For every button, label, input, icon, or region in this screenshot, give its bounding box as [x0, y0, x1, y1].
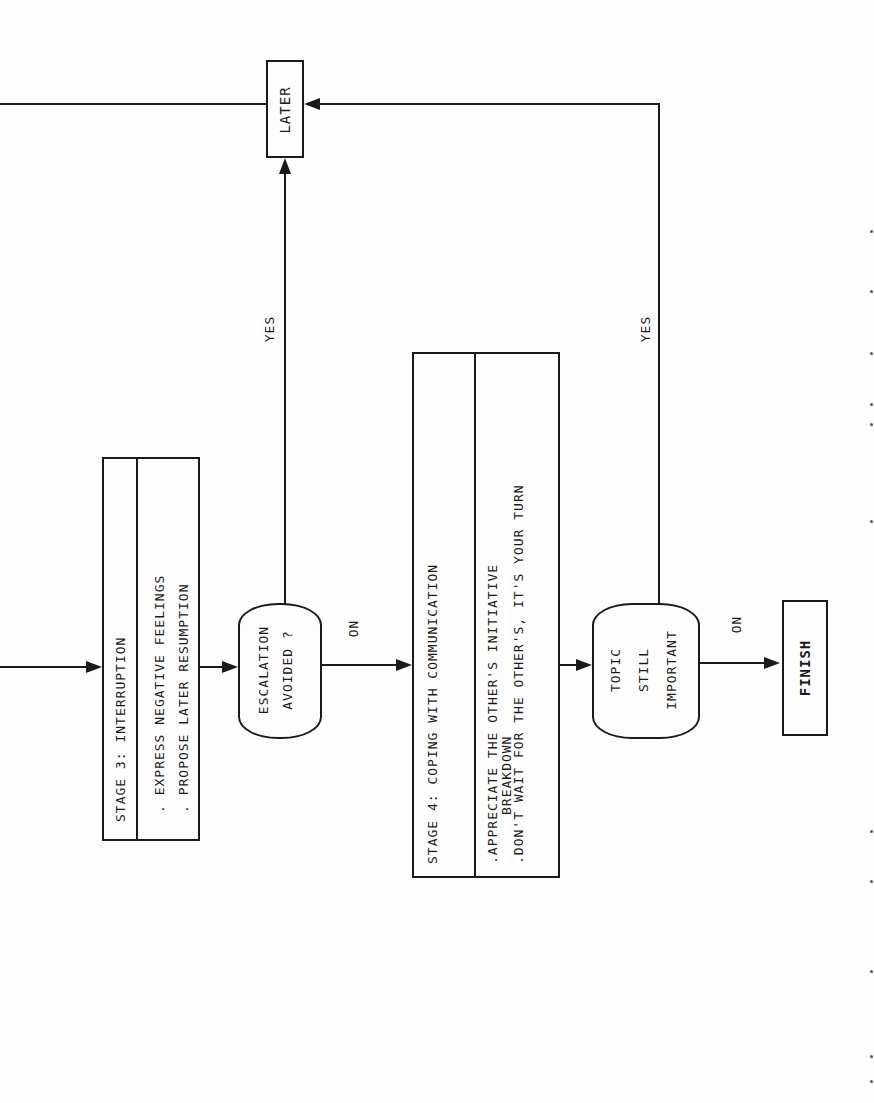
caption-artifact [870, 352, 873, 355]
arrow-into-topic [576, 659, 592, 671]
escalation-yes-label: YES [261, 309, 279, 349]
stage4-item-1: .APPRECIATE THE OTHER'S INITIATIVE [484, 364, 502, 866]
stage3-title: STAGE 3: INTERRUPTION [111, 472, 131, 826]
stage3-box: STAGE 3: INTERRUPTION . EXPRESS NEGATIVE… [102, 457, 200, 841]
caption-artifact [870, 423, 873, 426]
stage3-item-1: . EXPRESS NEGATIVE FEELINGS [150, 463, 170, 835]
topic-yes-vertical-line [658, 103, 660, 613]
stage4-title-line1: STAGE 4: COPING WITH COMMUNICATION [424, 364, 442, 866]
arrow-into-stage4 [396, 659, 412, 671]
caption-artifact [870, 230, 873, 233]
later-box: LATER [266, 60, 304, 158]
caption-artifact [870, 290, 873, 293]
stage4-item-2: .DON'T WAIT FOR THE OTHER'S, IT'S YOUR T… [510, 364, 528, 866]
incoming-line-to-stage3 [0, 666, 86, 668]
caption-artifact [870, 1080, 873, 1083]
caption-artifact [870, 830, 873, 833]
incoming-line-to-later [0, 103, 268, 105]
topic-no-line [700, 662, 766, 664]
topic-yes-label: YES [637, 309, 655, 349]
stage3-divider [136, 459, 138, 839]
caption-artifact [870, 520, 873, 523]
caption-artifact [870, 970, 873, 973]
later-label: LATER [275, 65, 295, 155]
stage3-item-2: . PROPOSE LATER RESUMPTION [174, 463, 194, 835]
topic-line3: IMPORTANT [663, 610, 681, 730]
arrow-into-later-right [304, 98, 320, 110]
escalation-no-label: NO [346, 621, 361, 639]
arrow-into-escalation [222, 661, 238, 673]
topic-yes-horizontal-line [318, 103, 660, 105]
escalation-line2: AVOIDED ? [279, 610, 297, 730]
escalation-decision: ESCALATION AVOIDED ? [238, 603, 322, 739]
stage4-box: STAGE 4: COPING WITH COMMUNICATION BREAK… [412, 352, 560, 878]
escalation-line1: ESCALATION [255, 610, 273, 730]
stage4-divider [474, 354, 476, 876]
arrow-into-stage3 [86, 661, 102, 673]
finish-box: FINISH [782, 600, 828, 736]
escalation-no-line [322, 664, 398, 666]
caption-artifact [870, 880, 873, 883]
arrow-into-finish [764, 657, 780, 669]
escalation-yes-line [284, 174, 286, 605]
caption-artifact [870, 1055, 873, 1058]
topic-no-label: NO [729, 617, 744, 635]
topic-decision: TOPIC STILL IMPORTANT [592, 603, 700, 739]
caption-artifact [870, 403, 873, 406]
stage3-to-escalation-line [200, 666, 224, 668]
topic-line2: STILL [635, 610, 653, 730]
topic-line1: TOPIC [607, 610, 625, 730]
finish-label: FINISH [795, 615, 815, 721]
arrow-into-later-bottom [279, 158, 291, 174]
